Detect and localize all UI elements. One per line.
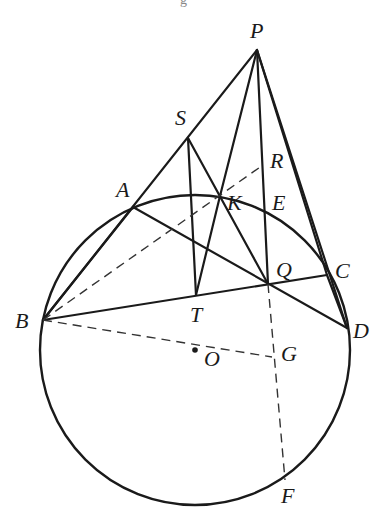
segment-st (188, 138, 196, 295)
segment-ad (133, 207, 347, 328)
label-point-g: G (281, 341, 297, 366)
solid-lines (43, 50, 347, 328)
geometry-figure: g PSABKREQCDTOGF (0, 0, 387, 516)
label-point-b: B (15, 308, 28, 333)
center-point-o (192, 347, 198, 353)
label-point-r: R (269, 148, 284, 173)
segment-pq (257, 50, 268, 284)
label-point-e: E (271, 190, 286, 215)
label-point-c: C (335, 258, 350, 283)
label-point-s: S (175, 105, 186, 130)
dashed-segment-bg (43, 320, 272, 357)
dashed-segment-qf (268, 284, 285, 480)
caption-fragment: g (180, 0, 187, 7)
label-point-f: F (280, 483, 295, 508)
label-point-q: Q (276, 257, 292, 282)
label-point-t: T (190, 302, 204, 327)
dashed-lines (43, 165, 285, 480)
label-point-d: D (352, 318, 369, 343)
segment-ba (43, 207, 133, 320)
segment-pd (257, 50, 347, 328)
label-point-p: P (249, 18, 263, 43)
dashed-segment-br (43, 165, 263, 320)
label-point-k: K (226, 190, 243, 215)
label-point-a: A (114, 177, 130, 202)
label-point-o: O (204, 346, 220, 371)
